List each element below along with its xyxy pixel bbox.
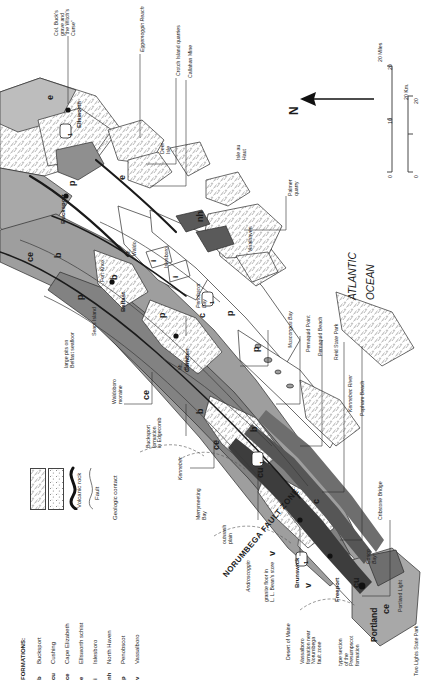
place-col-bucks-grave: Col. Buck's grave and "the Witch's Curse… [54, 9, 76, 36]
place-kennebec-river: Kennebec River [348, 375, 354, 412]
place-bucksport-formation-edgecomb: Bucksport formation in Edgecomb [146, 418, 163, 448]
ocean-label-line2: OCEAN [366, 264, 377, 300]
city-ellsworth: Ellsworth [76, 101, 82, 128]
place-two-lights-state-park: Two Lights State Park [414, 626, 420, 676]
legend-name-p: Penobscot [120, 636, 126, 664]
unit-label-e: e [46, 95, 56, 100]
legend-symbol-b: b [36, 676, 42, 680]
legend-name-b: Bucksport [36, 637, 42, 664]
unit-label-p: p [252, 347, 262, 353]
legend-name-nh: North Haven [106, 630, 112, 664]
place-pemaquid-point: Pemaquid Point [306, 315, 312, 352]
place-outwash-plain: outwash plain [222, 525, 233, 544]
unit-label-b: b [110, 275, 120, 281]
unit-label-i: i [150, 260, 159, 262]
unit-label-nh: nh [196, 211, 206, 222]
legend-symbol-i: i [92, 678, 98, 680]
legend-symbol-nh: nh [106, 673, 112, 680]
place-isle-au-haut: Isle au Haut [236, 145, 247, 160]
scale-km-unit: 20 Km. [404, 84, 410, 100]
city-portland: Portland [370, 608, 379, 642]
legend-symbol-p: p [120, 676, 126, 680]
place-casco-bay: Casco Bay [366, 549, 377, 564]
unit-label-i: i [172, 276, 181, 278]
city-belfast: Belfast [120, 292, 126, 312]
unit-label-v: v [268, 551, 278, 556]
legend-swatch-volcanic [48, 468, 64, 510]
unit-label-p: p [226, 311, 236, 317]
unit-label-ce: ce [142, 390, 152, 400]
place-merrymeeting-bay: Merrymeeting Bay [196, 488, 207, 520]
place-mt-battie: Mt. Battie [178, 357, 189, 370]
city-brunswick: Brunswick [294, 558, 300, 588]
unit-label-cu: cu [352, 577, 362, 588]
place-cribstone-bridge: Cribstone Bridge [378, 481, 384, 520]
scale-miles-tick-0: 0 [388, 175, 394, 178]
scale-miles-tick-10: 10 [388, 118, 394, 124]
place-crotch-island-quarries: Crotch Island quarries [176, 25, 182, 76]
scale-km-tick-0: 0 [414, 175, 420, 178]
unit-label-ce: ce [26, 252, 36, 262]
unit-label-b: b [250, 427, 260, 433]
place-reid-state-park: Reid State Park [334, 324, 340, 360]
legend-symbol-ce: ce [64, 673, 70, 680]
unit-label-cu: cu [256, 467, 266, 478]
city-freeport: Freeport [334, 578, 340, 602]
place-presumpscot-type-section: type section of the Presumpscot formatio… [338, 636, 360, 666]
route-marker-1: 1 [260, 461, 266, 464]
place-eggemoggin-reach: Eggemoggin Reach [140, 6, 146, 52]
unit-label-b: b [54, 253, 64, 259]
place-popham-beach: Popham Beach [360, 381, 366, 416]
unit-label-v: v [304, 583, 314, 588]
legend-symbol-cu: cu [50, 673, 56, 680]
unit-label-b: b [196, 409, 206, 415]
route-marker-1: 1 [210, 301, 216, 304]
place-islesboro: Islesboro [164, 247, 170, 268]
place-fort-knox: Fort Knox [100, 260, 106, 283]
legend-label-contact: Geologic contact [112, 475, 118, 520]
place-vassalboro-formation-norumbega: Vassalboro formation near Norumbega faul… [300, 631, 322, 664]
legend-name-v: Vassalboro [134, 634, 140, 664]
legend-swatch-pluton [30, 468, 46, 510]
place-desert-of-maine: Desert of Maine [286, 623, 292, 660]
place-waldoboro-moraine: Waldoboro moraine [112, 379, 123, 404]
legend-name-ce: Cape Elizabeth [64, 623, 70, 664]
unit-label-c: c [198, 313, 208, 318]
ocean-label-line1: ATLANTIC [348, 252, 359, 300]
place-portland-light: Portland Light [398, 580, 404, 612]
north-label: N [288, 106, 301, 115]
unit-label-p: p [158, 313, 168, 319]
unit-label-e: e [118, 175, 128, 180]
place-androscoggin: Androscoggin [246, 560, 252, 592]
legend-title: FORMATIONS: [20, 638, 26, 680]
place-pemaquid-beach: Pemaquid Beach [318, 316, 324, 356]
place-muscongus-bay: Muscongus Bay [288, 311, 294, 348]
scale-miles-tick-20: 20 [388, 64, 394, 70]
route-marker-1: 1 [304, 561, 310, 564]
place-penobscot-bay: Penobscot Bay [196, 283, 207, 308]
legend-symbol-v: v [134, 677, 140, 680]
legend-symbol-e: e [78, 677, 84, 680]
place-sears-island: Sears Island [92, 307, 98, 336]
scale-miles-unit: 20 Miles [378, 43, 384, 62]
place-palmer-quarry: Palmer quarry [288, 180, 299, 196]
unit-label-c: c [312, 499, 322, 504]
city-bucksport: Bucksport [60, 194, 66, 224]
legend-name-cu: Cushing [50, 642, 56, 664]
scale-km-tick-20: 20 [414, 98, 420, 104]
geologic-map-canvas: e e p b ce b p p c p p nh i i ce b ce b … [0, 0, 429, 693]
place-callahan-mine: Callahan Mine [188, 45, 194, 78]
legend-name-i: Islesboro [92, 640, 98, 664]
unit-label-p: p [76, 295, 86, 301]
unit-label-p: p [68, 181, 78, 187]
place-belfast-seafloor-pits: large pits on Belfast seafloor [64, 332, 75, 368]
route-marker-1: 1 [68, 133, 74, 136]
unit-label-ce: ce [382, 604, 392, 614]
place-kennebec: Kennebec [178, 457, 184, 480]
place-deer-isle: Deer Isle [160, 143, 171, 154]
legend-name-e: Ellsworth schist [78, 623, 84, 664]
unit-label-ce: ce [212, 440, 222, 450]
place-vinalhaven: Vinalhaven [248, 226, 254, 252]
place-mt-waldo: Mt. Waldo [126, 241, 137, 256]
place-ll-bean-granite-floor: granite floor in L. L. Bean's store [264, 562, 275, 602]
